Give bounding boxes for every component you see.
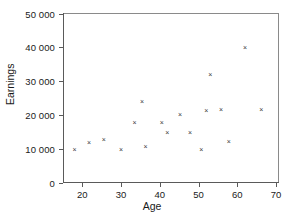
data-point bbox=[71, 146, 78, 153]
y-tick-label: 40 000 bbox=[25, 42, 55, 53]
y-tick-label: 50 000 bbox=[25, 8, 55, 19]
scatter-chart-figure: 010 00020 00030 00040 00050 000 20304050… bbox=[0, 0, 299, 220]
y-tick-mark bbox=[59, 149, 63, 150]
data-point bbox=[207, 71, 214, 78]
y-tick-label: 30 000 bbox=[25, 76, 55, 87]
y-tick-mark bbox=[59, 81, 63, 82]
x-tick-mark bbox=[160, 183, 161, 187]
x-tick-label: 40 bbox=[155, 189, 166, 200]
data-point bbox=[139, 98, 146, 105]
data-point bbox=[100, 136, 107, 143]
y-tick-mark bbox=[59, 115, 63, 116]
data-point bbox=[131, 119, 138, 126]
x-axis-ticks: 203040506070 bbox=[63, 183, 279, 203]
plot-frame-right bbox=[278, 13, 279, 183]
plot-frame-top bbox=[63, 13, 279, 14]
y-tick-label: 0 bbox=[50, 177, 55, 188]
data-point bbox=[142, 143, 149, 150]
y-tick-label: 10 000 bbox=[25, 143, 55, 154]
y-axis-line bbox=[63, 13, 64, 183]
data-point bbox=[118, 146, 125, 153]
y-tick-mark bbox=[59, 14, 63, 15]
x-tick-mark bbox=[121, 183, 122, 187]
y-tick-label: 20 000 bbox=[25, 109, 55, 120]
x-tick-mark bbox=[237, 183, 238, 187]
data-point bbox=[218, 106, 225, 113]
data-point bbox=[85, 139, 92, 146]
data-point bbox=[164, 129, 171, 136]
data-point bbox=[176, 111, 183, 118]
y-tick-mark bbox=[59, 47, 63, 48]
x-tick-label: 60 bbox=[232, 189, 243, 200]
x-tick-label: 20 bbox=[77, 189, 88, 200]
x-axis-title: Age bbox=[143, 200, 162, 212]
x-tick-mark bbox=[82, 183, 83, 187]
x-tick-label: 30 bbox=[116, 189, 127, 200]
x-tick-label: 50 bbox=[193, 189, 204, 200]
data-point bbox=[187, 129, 194, 136]
data-point bbox=[242, 44, 249, 51]
x-tick-mark bbox=[199, 183, 200, 187]
data-point bbox=[225, 138, 232, 145]
x-tick-mark bbox=[276, 183, 277, 187]
plot-area bbox=[63, 13, 278, 182]
x-tick-label: 70 bbox=[271, 189, 282, 200]
data-point bbox=[258, 106, 265, 113]
y-axis-title: Earnings bbox=[4, 64, 16, 105]
data-point bbox=[203, 107, 210, 114]
data-point bbox=[158, 119, 165, 126]
data-point bbox=[198, 146, 205, 153]
